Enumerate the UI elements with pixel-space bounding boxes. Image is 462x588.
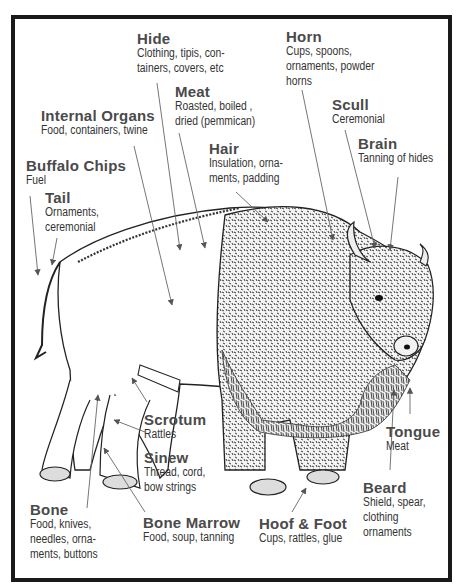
label-text: Food, containers, twine: [41, 123, 148, 138]
label-title: Sinew: [144, 450, 215, 465]
label-bone: Bone Food, knives, needles, orna- ments,…: [30, 502, 109, 562]
label-text: Ornaments,: [45, 205, 99, 220]
label-title: Hoof & Foot: [259, 516, 356, 531]
label-buffalo-chips: Buffalo Chips Fuel: [26, 158, 126, 188]
label-text: bow strings: [144, 480, 205, 495]
label-title: Tail: [45, 190, 108, 205]
label-text: Shield, spear,: [363, 495, 426, 510]
label-title: Beard: [363, 480, 436, 495]
label-text: Food, knives,: [30, 517, 98, 532]
label-title: Scrotum: [144, 412, 206, 427]
label-hair: Hair Insulation, orna- ments, padding: [209, 141, 295, 186]
label-text: Tanning of hides: [358, 151, 433, 166]
label-title: Hide: [137, 31, 239, 46]
label-text: Rattles: [144, 427, 198, 442]
label-text: Fuel: [26, 173, 112, 188]
label-title: Buffalo Chips: [26, 158, 126, 173]
label-scrotum: Scrotum Rattles: [144, 412, 206, 442]
label-text: Clothing, tipis, con-: [137, 46, 225, 61]
label-text: ceremonial: [45, 220, 99, 235]
label-text: ments, buttons: [30, 547, 98, 562]
horn-right: [420, 244, 428, 266]
label-beard: Beard Shield, spear, clothing ornaments: [363, 480, 436, 540]
hoof-front-left: [250, 479, 286, 495]
label-text: dried (pemmican): [175, 114, 255, 129]
label-title: Scull: [332, 97, 393, 112]
label-title: Hair: [209, 141, 295, 156]
buffalo-body: [36, 207, 433, 495]
label-meat: Meat Roasted, boiled , dried (pemmican): [175, 84, 268, 129]
tail: [36, 262, 60, 358]
label-text: ornaments: [363, 525, 426, 540]
label-text: Meat: [386, 439, 433, 454]
label-sinew: Sinew Thread, cord, bow strings: [144, 450, 215, 495]
label-title: Brain: [358, 136, 445, 151]
label-title: Meat: [175, 84, 268, 99]
label-hide: Hide Clothing, tipis, con- tainers, cove…: [137, 31, 239, 76]
label-tongue: Tongue Meat: [386, 424, 440, 454]
label-tail: Tail Ornaments, ceremonial: [45, 190, 108, 235]
hoof-front-right: [307, 470, 339, 484]
label-text: ments, padding: [209, 171, 283, 186]
label-text: Thread, cord,: [144, 465, 205, 480]
label-title: Bone: [30, 502, 109, 517]
label-brain: Brain Tanning of hides: [358, 136, 445, 166]
label-text: Food, soup, tanning: [143, 530, 234, 545]
label-text: Cups, spoons,: [286, 44, 374, 59]
label-internal-organs: Internal Organs Food, containers, twine: [41, 108, 165, 138]
label-text: horns: [286, 74, 374, 89]
label-scull: Scull Ceremonial: [332, 97, 393, 127]
label-title: Bone Marrow: [143, 515, 249, 530]
label-text: Insulation, orna-: [209, 156, 283, 171]
label-text: Ceremonial: [332, 112, 385, 127]
label-hoof-foot: Hoof & Foot Cups, rattles, glue: [259, 516, 356, 546]
label-text: clothing: [363, 510, 426, 525]
hoof-back-left: [40, 467, 70, 481]
eye: [375, 295, 383, 301]
label-title: Horn: [286, 29, 389, 44]
label-text: tainers, covers, etc: [137, 61, 225, 76]
label-text: Roasted, boiled ,: [175, 99, 255, 114]
label-title: Internal Organs: [41, 108, 165, 123]
label-bone-marrow: Bone Marrow Food, soup, tanning: [143, 515, 249, 545]
label-text: ornaments, powder: [286, 59, 374, 74]
hoof-back-right: [103, 475, 137, 489]
label-text: Cups, rattles, glue: [259, 531, 342, 546]
label-text: needles, orna-: [30, 532, 98, 547]
label-title: Tongue: [386, 424, 440, 439]
label-horn: Horn Cups, spoons, ornaments, powder hor…: [286, 29, 389, 89]
